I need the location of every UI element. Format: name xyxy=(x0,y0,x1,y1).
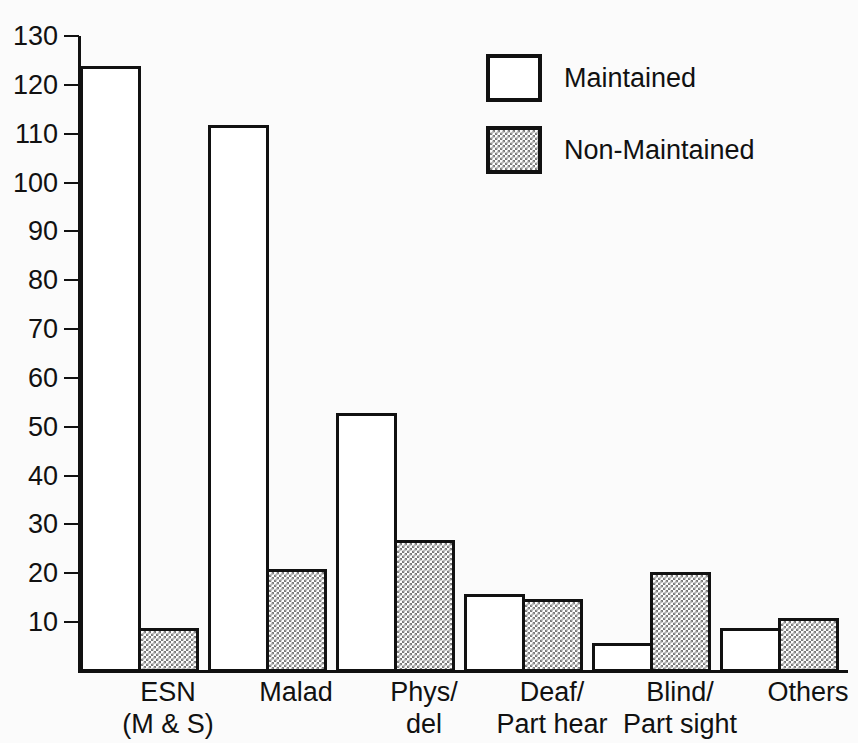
y-axis-tick xyxy=(64,426,79,428)
bar-non-maintained xyxy=(138,628,199,672)
legend-item-label: Non-Maintained xyxy=(564,135,755,166)
stipple-square-icon xyxy=(486,126,542,174)
bar-chart: 102030405060708090100110120130 ESN (M & … xyxy=(0,0,858,743)
bar-non-maintained xyxy=(394,540,455,672)
bar-maintained xyxy=(592,643,653,672)
y-axis-tick-label: 80 xyxy=(28,265,58,296)
bar-maintained xyxy=(80,66,141,672)
bar-maintained xyxy=(464,594,525,672)
bar-maintained xyxy=(336,413,397,672)
y-axis-tick xyxy=(64,328,79,330)
y-axis-tick xyxy=(64,35,79,37)
bar-non-maintained xyxy=(266,569,327,672)
y-axis-tick-label: 30 xyxy=(28,509,58,540)
y-axis-tick xyxy=(64,133,79,135)
y-axis-tick-label: 10 xyxy=(28,607,58,638)
y-axis-tick-label: 70 xyxy=(28,314,58,345)
y-axis-tick xyxy=(64,182,79,184)
bar-non-maintained xyxy=(522,599,583,672)
legend: MaintainedNon-Maintained xyxy=(486,42,816,186)
y-axis-tick xyxy=(64,572,79,574)
legend-item: Maintained xyxy=(486,42,816,114)
y-axis-tick-label: 130 xyxy=(13,21,58,52)
y-axis-tick xyxy=(64,523,79,525)
y-axis-tick xyxy=(64,475,79,477)
legend-item-label: Maintained xyxy=(564,63,696,94)
y-axis-tick-label: 90 xyxy=(28,216,58,247)
y-axis-tick-label: 100 xyxy=(13,167,58,198)
y-axis-tick xyxy=(64,621,79,623)
legend-item: Non-Maintained xyxy=(486,114,816,186)
y-axis-tick xyxy=(64,377,79,379)
y-axis-tick xyxy=(64,84,79,86)
y-axis-tick-label: 50 xyxy=(28,411,58,442)
y-axis-tick-label: 60 xyxy=(28,362,58,393)
white-square-icon xyxy=(486,54,542,102)
y-axis-tick xyxy=(64,230,79,232)
x-axis-category-label: Others xyxy=(718,676,858,708)
bar-maintained xyxy=(720,628,781,672)
bar-non-maintained xyxy=(778,618,839,672)
y-axis-tick-label: 110 xyxy=(15,118,58,149)
y-axis-tick xyxy=(64,279,79,281)
bar-maintained xyxy=(208,125,269,672)
bar-non-maintained xyxy=(650,572,711,672)
y-axis-tick-label: 120 xyxy=(13,69,58,100)
y-axis-tick-label: 20 xyxy=(28,558,58,589)
y-axis-tick-label: 40 xyxy=(28,460,58,491)
